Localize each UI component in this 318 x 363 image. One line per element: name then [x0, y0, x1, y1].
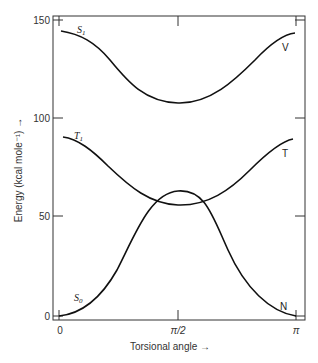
curve-t1 — [63, 137, 293, 205]
xtick-label-pi: π — [293, 325, 300, 336]
label-s0: S0 — [74, 292, 83, 305]
y-ticks-right — [295, 20, 305, 316]
xtick-label-0: 0 — [57, 325, 63, 336]
label-v: V — [282, 42, 289, 53]
y-axis-title: Energy (kcal mole⁻¹) → — [13, 118, 24, 222]
y-ticks-left — [53, 20, 63, 316]
x-ticks-top — [59, 16, 296, 26]
x-ticks-bottom — [59, 310, 296, 320]
label-t: T — [282, 148, 288, 159]
plot-frame — [53, 16, 305, 320]
ytick-label-0: 0 — [44, 311, 50, 322]
xtick-label-pi-half: π/2 — [170, 325, 185, 336]
curve-s0 — [59, 191, 296, 316]
curve-s1 — [61, 31, 295, 103]
label-n: N — [280, 301, 287, 312]
ytick-label-50: 50 — [39, 211, 51, 222]
energy-chart: 150 100 50 0 0 π/2 π Torsional angle → E… — [0, 0, 318, 363]
x-axis-title: Torsional angle → — [130, 341, 210, 352]
ytick-label-150: 150 — [33, 15, 50, 26]
ytick-label-100: 100 — [33, 113, 50, 124]
